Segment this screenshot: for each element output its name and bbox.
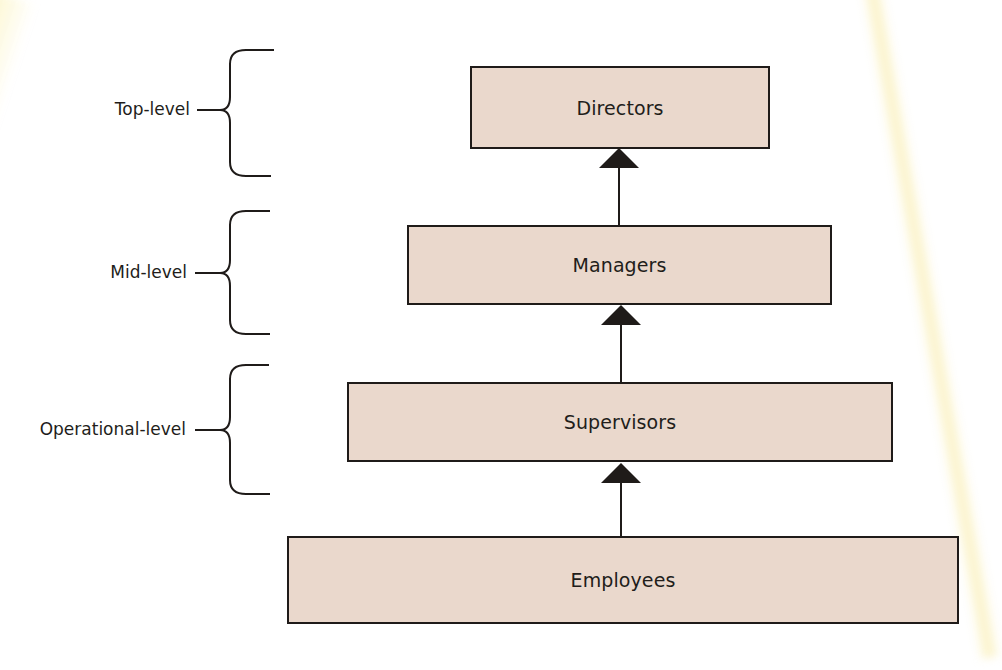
node-label: Employees (571, 569, 676, 591)
arrowhead-icon (599, 148, 639, 168)
curly-brace-icon (195, 211, 270, 334)
curly-brace-icon (195, 365, 270, 494)
node-managers: Managers (407, 225, 832, 305)
level-label-top: Top-level (115, 99, 190, 119)
node-directors: Directors (470, 66, 770, 149)
node-label: Supervisors (564, 411, 677, 433)
arrowhead-icon (601, 305, 641, 325)
node-supervisors: Supervisors (347, 382, 893, 462)
curly-brace-icon (197, 50, 274, 176)
arrow-employees-to-supervisors (601, 463, 641, 537)
arrowhead-icon (601, 463, 641, 483)
node-label: Directors (576, 97, 663, 119)
arrow-managers-to-directors (599, 148, 639, 226)
arrow-supervisors-to-managers (601, 305, 641, 383)
node-employees: Employees (287, 536, 959, 624)
node-label: Managers (573, 254, 667, 276)
level-label-mid: Mid-level (110, 262, 187, 282)
level-label-operational: Operational-level (40, 419, 186, 439)
